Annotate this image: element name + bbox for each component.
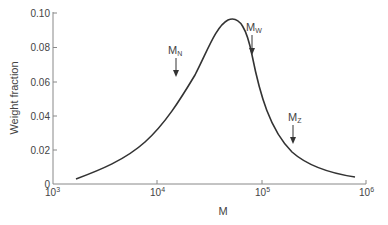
- arrow-down-icon: [249, 48, 255, 55]
- x-axis-label: M: [218, 205, 227, 217]
- x-tick-label: 105: [255, 186, 270, 198]
- mw-label: MW: [246, 21, 262, 34]
- y-axis-label: Weight fraction: [8, 61, 20, 134]
- y-tick-label: 0.10: [31, 8, 51, 19]
- x-tick-label: 104: [150, 186, 165, 198]
- x-tick-label: 106: [359, 186, 374, 198]
- mn-label: MN: [168, 44, 182, 57]
- y-tick-label: 0.02: [31, 145, 51, 156]
- y-ticks: [53, 13, 57, 150]
- distribution-curve: [76, 19, 355, 179]
- weight-fraction-chart: 0.10 0.08 0.06 0.04 0.02 0 103 104 105 1…: [0, 0, 388, 225]
- y-tick-label: 0.04: [31, 111, 51, 122]
- mz-label: MZ: [288, 111, 302, 124]
- y-tick-label: 0.08: [31, 42, 51, 53]
- x-ticks: [157, 180, 366, 184]
- y-tick-label: 0.06: [31, 77, 51, 88]
- mn-annotation: MN: [168, 44, 182, 77]
- arrow-down-icon: [290, 137, 296, 144]
- arrow-down-icon: [173, 70, 179, 77]
- x-tick-label: 103: [45, 186, 60, 198]
- mz-annotation: MZ: [288, 111, 302, 144]
